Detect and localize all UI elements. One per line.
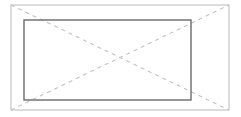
drawing-canvas <box>0 0 241 117</box>
technical-drawing-svg <box>0 0 241 117</box>
inner-panel-rectangle <box>24 20 191 100</box>
